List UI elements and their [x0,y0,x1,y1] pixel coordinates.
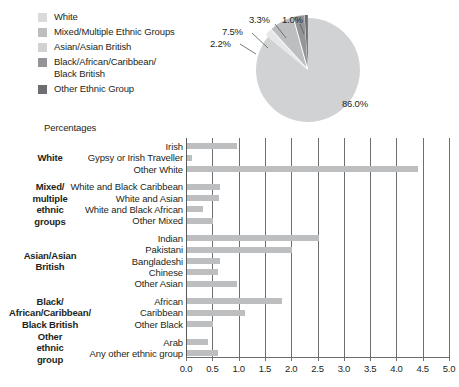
pie-slice-value-label: 1.0% [282,14,303,25]
pie-leader-line [240,44,256,54]
legend-swatch-icon [38,28,47,37]
bar [187,206,203,212]
bar-category-label: Indian [3,233,183,244]
x-axis-tick-label: 3.5 [364,363,376,374]
pie-slice-value-label: 3.3% [249,14,270,25]
bar-category-label: Other Asian [3,278,183,289]
x-axis-tick [265,357,266,361]
x-axis-tick [239,357,240,361]
bar-chart: Percentages WhiteMixed/ multiple ethnic … [0,122,459,387]
x-axis-tick-label: 2.0 [285,363,297,374]
bar [187,195,219,201]
x-axis-tick [370,357,371,361]
bar-category-label: White and Black African [3,204,183,215]
pie-slice-value-label: 2.2% [210,38,231,49]
x-axis-tick-label: 1.0 [232,363,244,374]
x-axis-tick-label: 0.0 [180,363,192,374]
x-axis-tick-label: 3.0 [338,363,350,374]
x-axis-tick [186,357,187,361]
bar-category-label: Gypsy or Irish Traveller [3,152,183,163]
bar-category-label: White and Asian [3,193,183,204]
x-axis-tick [318,357,319,361]
bar [187,321,213,327]
axis-title: Percentages [44,122,96,133]
bar-category-label: African [3,296,183,307]
bar [187,218,213,224]
x-axis-tick-label: 1.5 [259,363,271,374]
bar-category-label: Other White [3,164,183,175]
bar-category-label: Pakistani [3,244,183,255]
bar [187,143,237,149]
pie-slice-value-label: 86.0% [342,98,368,109]
bar [187,247,292,253]
pie-chart-svg [196,4,459,130]
legend-swatch-icon [38,58,47,67]
bar [187,235,319,241]
bar [187,298,282,304]
bar [187,339,208,345]
pie-chart: 2.2%7.5%3.3%1.0%86.0% [196,4,459,130]
legend-swatch-icon [38,13,47,22]
pie-slice-value-label: 7.5% [222,26,243,37]
legend-swatch-icon [38,85,47,94]
x-axis-tick-label: 4.5 [417,363,429,374]
legend-item-label: White [54,11,78,23]
bar [187,184,220,190]
legend-swatch-icon [38,43,47,52]
x-axis-tick [344,357,345,361]
bar-category-label: Caribbean [3,307,183,318]
x-axis-tick-label: 2.5 [311,363,323,374]
x-axis-tick [449,357,450,361]
bar [187,258,220,264]
x-axis-tick [291,357,292,361]
legend-item-label: Asian/Asian British [54,41,131,53]
bar-category-label: Chinese [3,267,183,278]
bar [187,155,192,161]
bar-category-label: Irish [3,141,183,152]
chart-page: WhiteMixed/Multiple Ethnic GroupsAsian/A… [0,0,459,387]
x-axis-tick-label: 0.5 [206,363,218,374]
x-axis-tick-label: 5.0 [443,363,455,374]
legend-item-label: Mixed/Multiple Ethnic Groups [54,26,175,38]
bar [187,166,418,172]
bar-category-label: Other Black [3,319,183,330]
gridline [449,138,450,357]
gridline [423,138,424,357]
bar [187,350,218,356]
x-axis-tick [423,357,424,361]
bar-plot-area [186,138,449,357]
x-axis-tick [396,357,397,361]
x-axis-tick-label: 4.0 [390,363,402,374]
bar [187,310,245,316]
bar-category-label: Any other ethnic group [3,348,183,359]
legend-item-label: Other Ethnic Group [54,83,134,95]
bar-category-label: Bangladeshi [3,256,183,267]
bar-category-labels: IrishGypsy or Irish TravellerOther White… [0,138,183,357]
bar-category-label: Other Mixed [3,215,183,226]
bar [187,269,218,275]
x-axis-tick [212,357,213,361]
legend-item-label: Black/African/Caribbean/ Black British [54,56,156,79]
bar-category-label: Arab [3,337,183,348]
bar-category-label: White and Black Caribbean [3,181,183,192]
bar [187,281,237,287]
